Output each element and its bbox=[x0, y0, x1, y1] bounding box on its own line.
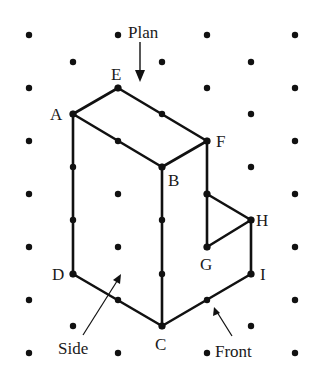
vertex-dot-fg_top bbox=[203, 190, 210, 197]
vertex-dot-e bbox=[114, 84, 121, 91]
plan-label: Plan bbox=[128, 23, 159, 42]
edge-a-b bbox=[73, 114, 162, 167]
vertex-label-f: F bbox=[216, 132, 225, 151]
isometric-diagram: Plan Side Front E A F B H G D I C bbox=[0, 0, 323, 375]
vertex-dot-f bbox=[203, 137, 210, 144]
front-arrow-icon bbox=[213, 307, 232, 336]
front-label: Front bbox=[215, 342, 252, 361]
vertex-label-b: B bbox=[168, 171, 179, 190]
plan-arrow-icon bbox=[135, 42, 145, 82]
edge-g-h bbox=[207, 220, 251, 247]
vertex-dot-d bbox=[69, 270, 76, 277]
vertex-dot-h bbox=[247, 216, 254, 223]
vertex-dot-a bbox=[69, 110, 76, 117]
edges bbox=[73, 88, 251, 326]
side-label: Side bbox=[58, 339, 88, 358]
vertex-dot-c bbox=[158, 322, 165, 329]
solid-outline: Plan Side Front E A F B H G D I C bbox=[0, 0, 323, 375]
vertex-label-a: A bbox=[50, 105, 63, 124]
vertex-label-g: G bbox=[200, 255, 212, 274]
vertex-label-e: E bbox=[111, 65, 121, 84]
edge-b-f bbox=[162, 141, 207, 167]
edge-fg_top-h bbox=[207, 194, 251, 220]
edge-e-f bbox=[118, 88, 207, 141]
vertex-dot-g bbox=[203, 243, 210, 250]
vertex-label-i: I bbox=[260, 265, 266, 284]
vertex-dot-i bbox=[247, 270, 254, 277]
vertex-label-h: H bbox=[256, 211, 268, 230]
vertex-label-d: D bbox=[52, 265, 64, 284]
vertex-label-c: C bbox=[155, 335, 166, 354]
edge-c-i bbox=[162, 274, 251, 326]
vertex-dot-b bbox=[158, 163, 165, 170]
edge-a-e bbox=[73, 88, 118, 114]
